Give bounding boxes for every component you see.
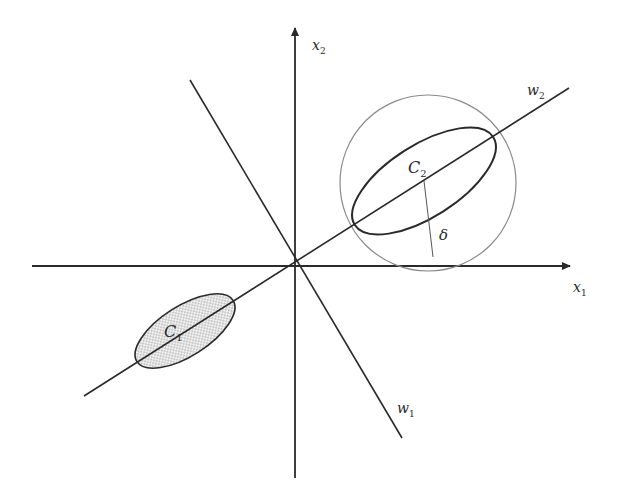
c2-label: C2 — [408, 158, 427, 179]
w2-label: w2 — [527, 82, 545, 101]
x1-axis-label: x1 — [573, 279, 587, 298]
w1-line — [190, 80, 402, 438]
w1-label: w1 — [397, 400, 415, 419]
delta-label: δ — [439, 226, 448, 244]
diagram-canvas: x2 x1 w2 w1 C2 C1 δ — [0, 0, 618, 501]
x2-axis-label: x2 — [312, 37, 326, 56]
w2-line — [84, 88, 569, 396]
